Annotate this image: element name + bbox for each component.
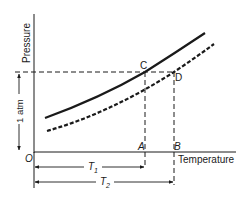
one-atm-label: 1 atm: [14, 99, 25, 123]
point-c-label: C: [140, 60, 147, 71]
pressure-temperature-diagram: Pressure Temperature O 1 atm C D A B T1 …: [0, 0, 243, 202]
point-a-label: A: [137, 141, 145, 152]
point-d-label: D: [175, 72, 182, 83]
x-axis-label: Temperature: [178, 154, 235, 165]
y-axis-label: Pressure: [21, 23, 32, 63]
origin-label: O: [25, 153, 33, 164]
dashed-curve: [47, 44, 214, 131]
point-b-label: B: [174, 141, 181, 152]
